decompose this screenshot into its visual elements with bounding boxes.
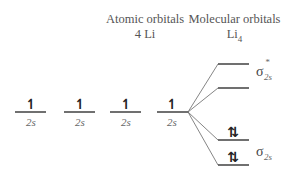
- sigma-star-label: σ: [256, 64, 264, 79]
- electron-up-arrow: ↿: [25, 96, 37, 112]
- atomic-orbital-1: ↿ 2s: [15, 96, 46, 128]
- correlation-lines: [188, 64, 218, 165]
- mo-sigma-2s: ⇅ σ 2s: [218, 144, 273, 165]
- sigma-star-subscript: 2s: [264, 72, 273, 82]
- electron-pair-arrows: ⇅: [227, 124, 239, 140]
- sigma-subscript: 2s: [264, 152, 273, 162]
- mo-diagram: ↿ 2s ↿ 2s ↿ 2s ↿ 2s σ * 2s ⇅ ⇅ σ: [0, 0, 287, 178]
- orbital-label: 2s: [121, 116, 131, 128]
- orbital-label: 2s: [75, 116, 85, 128]
- mo-sigma-star-2s: σ * 2s: [218, 57, 273, 82]
- sigma-star-superscript: *: [265, 57, 270, 67]
- atomic-orbital-2: ↿ 2s: [64, 96, 95, 128]
- electron-up-arrow: ↿: [120, 96, 132, 112]
- orbital-label: 2s: [26, 116, 36, 128]
- electron-pair-arrows: ⇅: [227, 149, 239, 165]
- orbital-label: 2s: [167, 116, 177, 128]
- atomic-orbital-4: ↿ 2s: [157, 96, 188, 128]
- electron-up-arrow: ↿: [166, 96, 178, 112]
- mo-bonding-upper: ⇅: [218, 124, 249, 140]
- atomic-orbital-3: ↿ 2s: [110, 96, 141, 128]
- sigma-label: σ: [256, 144, 264, 159]
- electron-up-arrow: ↿: [74, 96, 86, 112]
